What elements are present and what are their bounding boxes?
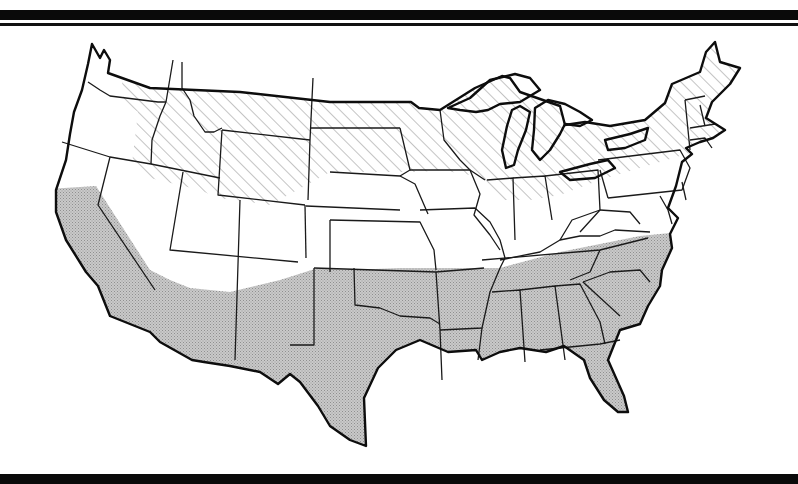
zone-north-hatch (120, 40, 760, 205)
us-map (0, 0, 798, 484)
bottom-thick-rule (0, 474, 798, 484)
